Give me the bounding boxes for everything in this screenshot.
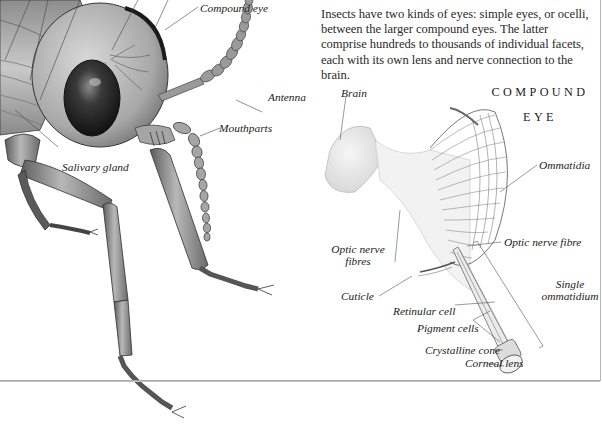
label-optic-nerve-fibres-line2: fibres — [318, 255, 398, 267]
right-border-rule — [600, 0, 601, 381]
label-brain: Brain — [341, 87, 367, 99]
label-retinular-cell: Retinular cell — [393, 305, 455, 317]
compound-eye-title-line1: COMPOUND — [470, 80, 602, 105]
label-single-ommatidium-line2: ommatidium — [535, 290, 602, 302]
label-corneal-lens: Corneal lens — [465, 357, 524, 369]
label-ommatidia: Ommatidia — [539, 159, 590, 171]
label-optic-nerve-fibres: Optic nerve fibres — [318, 243, 398, 267]
label-single-ommatidium-line1: Single — [535, 278, 602, 290]
insect-legs — [5, 134, 274, 418]
label-cuticle: Cuticle — [341, 290, 374, 302]
compound-eye-title-line2: EYE — [470, 105, 602, 130]
label-mouthparts: Mouthparts — [219, 122, 272, 134]
label-single-ommatidium: Single ommatidium — [535, 278, 602, 302]
label-compound-eye: Compound eye — [200, 2, 268, 14]
label-crystalline-cone: Crystalline cone — [425, 344, 500, 356]
label-optic-nerve-fibres-line1: Optic nerve — [318, 243, 398, 255]
label-antenna: Antenna — [268, 91, 306, 103]
compound-eye-title: COMPOUND EYE — [470, 80, 602, 130]
intro-paragraph: Insects have two kinds of eyes: simple e… — [321, 7, 596, 84]
label-optic-nerve-fibre: Optic nerve fibre — [504, 236, 581, 248]
encyclopedia-page: Insects have two kinds of eyes: simple e… — [0, 0, 602, 431]
label-salivary-gland: Salivary gland — [62, 161, 129, 173]
bottom-divider-rule — [0, 380, 600, 382]
insect-antenna — [158, 0, 253, 101]
label-pigment-cells: Pigment cells — [417, 322, 479, 334]
